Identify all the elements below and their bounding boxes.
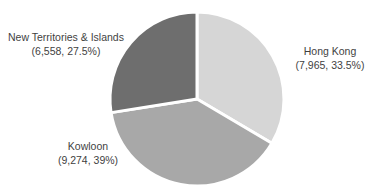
pie-label-hong-kong: Hong Kong (7,965, 33.5%) xyxy=(288,44,372,72)
pie-label-new-territories-name: New Territories & Islands xyxy=(2,30,130,44)
pie-label-kowloon-value: (9,274, 39%) xyxy=(40,153,136,167)
pie-chart: New Territories & Islands (6,558, 27.5%)… xyxy=(0,0,373,192)
pie-label-hong-kong-name: Hong Kong xyxy=(288,44,372,58)
pie-label-kowloon-name: Kowloon xyxy=(40,139,136,153)
pie-slice-new-territories[interactable] xyxy=(110,12,197,113)
pie-label-new-territories: New Territories & Islands (6,558, 27.5%) xyxy=(2,30,130,58)
pie-label-kowloon: Kowloon (9,274, 39%) xyxy=(40,139,136,167)
pie-label-new-territories-value: (6,558, 27.5%) xyxy=(2,44,130,58)
pie-label-hong-kong-value: (7,965, 33.5%) xyxy=(288,58,372,72)
